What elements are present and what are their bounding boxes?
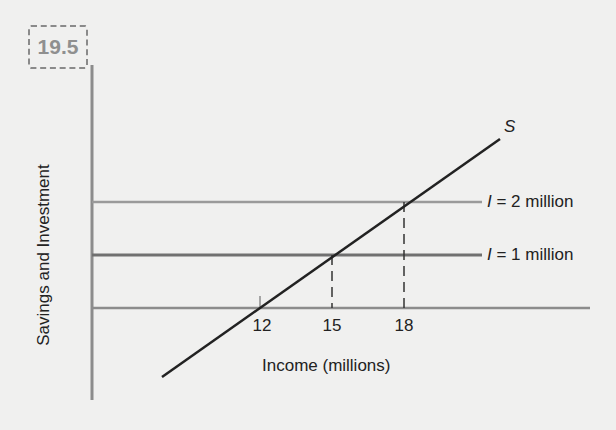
y-axis-label: Savings and Investment: [34, 164, 54, 345]
i1-value: = 1 million: [492, 245, 574, 264]
investment-2-million-label: I = 2 million: [487, 192, 573, 212]
savings-line: [162, 139, 500, 377]
i2-value: = 2 million: [492, 192, 574, 211]
x-tick-15: 15: [323, 316, 342, 336]
investment-1-million-label: I = 1 million: [487, 245, 573, 265]
x-tick-12: 12: [253, 316, 272, 336]
x-tick-18: 18: [395, 316, 414, 336]
savings-line-label: S: [504, 117, 515, 137]
x-axis-label: Income (millions): [262, 356, 390, 376]
